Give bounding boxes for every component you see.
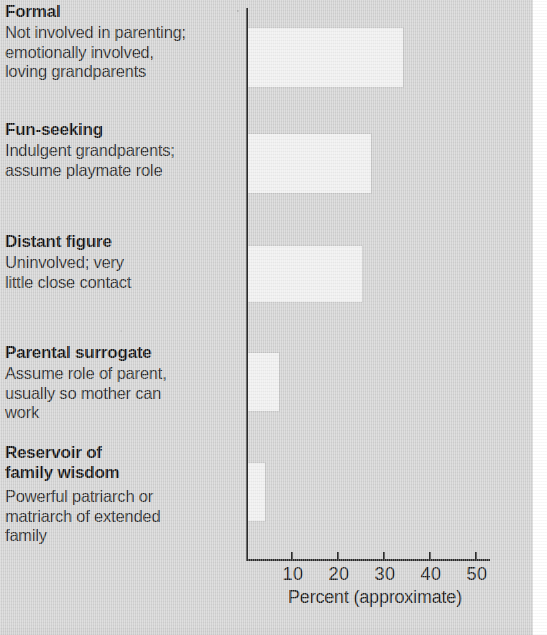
x-tick-label-20: 20 bbox=[319, 563, 359, 585]
x-tick-label-50: 50 bbox=[457, 563, 497, 585]
bar-parental-surrogate bbox=[248, 352, 280, 412]
page-right-margin bbox=[533, 0, 547, 635]
bar-distant-figure bbox=[248, 245, 363, 303]
bar-fun-seeking bbox=[248, 133, 372, 194]
bar-formal bbox=[248, 27, 404, 88]
x-tick-label-40: 40 bbox=[411, 563, 451, 585]
x-tick-mark-20 bbox=[337, 552, 339, 560]
x-tick-label-10: 10 bbox=[273, 563, 313, 585]
x-tick-mark-40 bbox=[429, 552, 431, 560]
x-tick-label-30: 30 bbox=[365, 563, 405, 585]
figure-page: Formal Not involved in parenting; emotio… bbox=[0, 0, 547, 635]
x-tick-mark-10 bbox=[291, 552, 293, 560]
x-tick-mark-50 bbox=[475, 552, 477, 560]
x-axis-line bbox=[246, 559, 490, 561]
x-tick-mark-30 bbox=[383, 552, 385, 560]
x-axis-label: Percent (approximate) bbox=[246, 586, 504, 608]
bar-reservoir-of-family-wisdom bbox=[248, 462, 266, 522]
bar-chart-plot-area: 10 20 30 40 50 Percent (approximate) bbox=[0, 0, 547, 635]
